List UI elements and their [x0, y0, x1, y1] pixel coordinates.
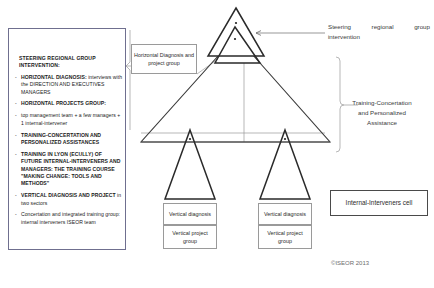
right-triangle-dot [284, 138, 286, 140]
copyright-notice: ©ISEOR 2013 [331, 259, 369, 268]
steering-group-panel-content: STEERING REGIONAL GROUP INTERVENTION: - … [9, 29, 127, 251]
bullet-dash: - [15, 100, 17, 107]
panel-item-text: Concertation and integrated training gro… [21, 211, 120, 224]
panel-item-training-concertation: - TRAINING-CONCERTATION and PERSONALIZED… [15, 132, 122, 147]
annotation-steering-line2: intervention [328, 32, 434, 42]
label-horizontal-diagnosis-project-group: Horizontal Diagnosis and project group [131, 44, 197, 74]
top-triangle-dot [235, 22, 237, 24]
bullet-dash: - [15, 192, 17, 199]
label-internal-interveners-cell: Internal-Interveners cell [330, 190, 428, 216]
right-small-triangle [260, 130, 310, 199]
leader-horizontal-label [197, 59, 218, 74]
bullet-dash: - [15, 151, 17, 158]
panel-item-horizontal-projects-group: - HORIZONTAL PROJECTS GROUP: [15, 100, 122, 107]
panel-item-text: top management team + a few managers + 1… [21, 112, 120, 125]
annotation-steering-intervention: Steering regional group intervention [328, 22, 434, 41]
panel-heading: STEERING REGIONAL GROUP INTERVENTION: [15, 55, 122, 70]
panel-item-strong: VERTICAL DIAGNOSIS AND PROJECT [21, 192, 116, 198]
annotation-word-group: group [414, 22, 430, 32]
panel-item-vertical-diagnosis: - VERTICAL DIAGNOSIS AND PROJECT in two … [15, 192, 122, 207]
diagram-canvas: STEERING REGIONAL GROUP INTERVENTION: - … [0, 0, 434, 288]
left-triangle-dot [189, 138, 191, 140]
panel-item-strong: HORIZONTAL DIAGNOSIS: [21, 74, 87, 80]
annotation-word-regional: regional [372, 22, 394, 32]
panel-item-training-lyon: - TRAINING IN LYON (ECULLY) OF FUTURE IN… [15, 151, 122, 188]
label-vertical-diagnosis-2: Vertical diagnosis [258, 203, 312, 225]
panel-item-strong: TRAINING IN LYON (ECULLY) OF FUTURE INTE… [21, 151, 120, 187]
left-small-triangle [165, 130, 215, 199]
panel-item-strong: TRAINING-CONCERTATION and PERSONALIZED A… [21, 132, 101, 145]
panel-item-strong: HORIZONTAL PROJECTS GROUP: [21, 100, 106, 106]
panel-item-top-management: - top management team + a few managers +… [15, 112, 122, 127]
bullet-dash: - [15, 112, 17, 119]
panel-item-horizontal-diagnosis: - HORIZONTAL DIAGNOSIS: interviews with … [15, 74, 122, 96]
annotation-training-concertation: Training-Concertation and Personalized A… [352, 98, 412, 128]
label-vertical-project-group-1: Vertical project group [163, 225, 217, 249]
panel-item-concertation-group: - Concertation and integrated training g… [15, 211, 122, 226]
annotation-steering-line1: Steering regional group [328, 22, 430, 32]
steering-group-panel: STEERING REGIONAL GROUP INTERVENTION: - … [8, 28, 126, 250]
bullet-dash: - [15, 132, 17, 139]
annotation-word-steering: Steering [328, 22, 351, 32]
label-vertical-diagnosis-1: Vertical diagnosis [163, 203, 217, 225]
second-triangle-dot [234, 38, 236, 40]
label-vertical-project-group-2: Vertical project group [258, 225, 312, 249]
top-small-triangle [208, 8, 264, 56]
training-bracket [336, 57, 344, 152]
bullet-dash: - [15, 74, 17, 81]
bullet-dash: - [15, 211, 17, 218]
